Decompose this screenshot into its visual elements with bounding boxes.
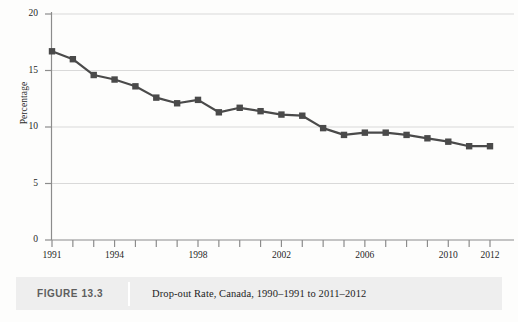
figure-container: Percentage 05101520199119941998200220062… <box>0 0 518 322</box>
data-point-marker <box>257 108 263 114</box>
y-tick-label: 15 <box>12 65 38 75</box>
data-point-marker <box>132 83 138 89</box>
data-point-marker <box>487 143 493 149</box>
series-line-drop-out-rate <box>52 51 490 146</box>
line-chart-plot <box>0 0 518 266</box>
data-point-marker <box>216 109 222 115</box>
data-point-marker <box>91 72 97 78</box>
data-point-marker <box>466 143 472 149</box>
x-tick-label: 1991 <box>29 250 75 260</box>
y-tick-label: 0 <box>12 234 38 244</box>
y-tick-label: 10 <box>12 121 38 131</box>
data-point-marker <box>111 76 117 82</box>
data-point-marker <box>403 132 409 138</box>
data-point-marker <box>424 135 430 141</box>
data-point-marker <box>153 94 159 100</box>
data-point-marker <box>445 138 451 144</box>
data-point-marker <box>70 56 76 62</box>
y-tick-label: 20 <box>12 8 38 18</box>
x-tick-label: 2012 <box>467 250 513 260</box>
x-tick-label: 2010 <box>425 250 471 260</box>
data-point-marker <box>278 111 284 117</box>
data-point-marker <box>383 129 389 135</box>
data-point-marker <box>299 113 305 119</box>
x-tick-label: 2002 <box>258 250 304 260</box>
data-point-marker <box>237 105 243 111</box>
figure-caption-bar: FIGURE 13.3 Drop-out Rate, Canada, 1990–… <box>16 277 502 310</box>
figure-caption-title: Drop-out Rate, Canada, 1990–1991 to 2011… <box>130 288 366 299</box>
x-tick-label: 1998 <box>175 250 221 260</box>
data-point-marker <box>341 132 347 138</box>
y-tick-label: 5 <box>12 178 38 188</box>
data-point-marker <box>174 100 180 106</box>
data-point-marker <box>320 125 326 131</box>
x-tick-label: 1994 <box>92 250 138 260</box>
chart-area: Percentage 05101520199119941998200220062… <box>0 0 518 266</box>
data-point-marker <box>195 97 201 103</box>
figure-number-label: FIGURE 13.3 <box>16 288 128 299</box>
data-point-marker <box>362 129 368 135</box>
data-point-marker <box>49 48 55 54</box>
x-tick-label: 2006 <box>342 250 388 260</box>
